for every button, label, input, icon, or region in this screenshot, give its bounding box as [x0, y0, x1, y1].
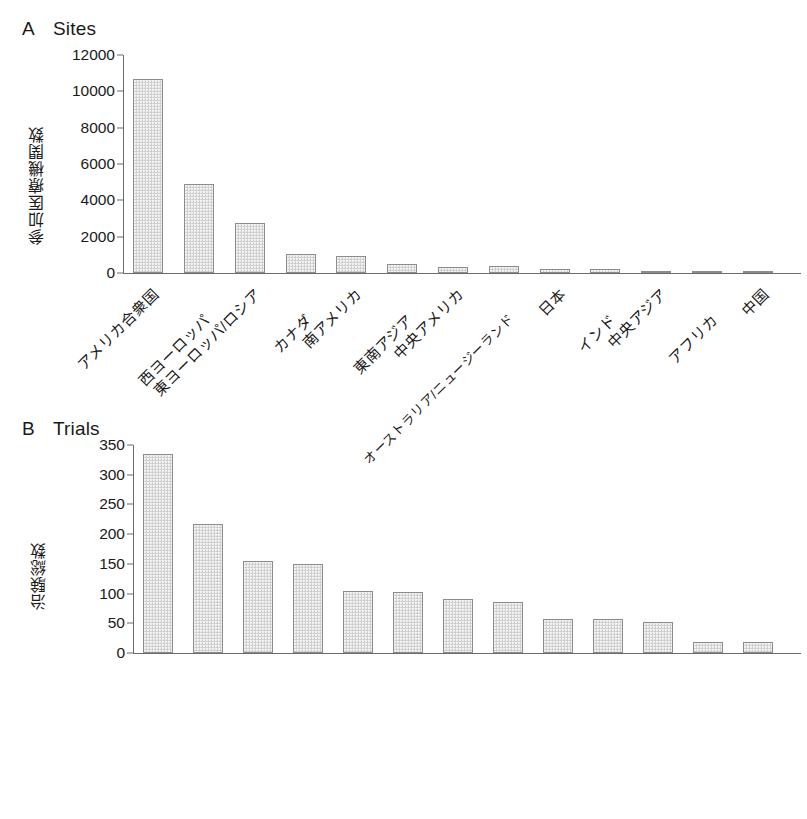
- y-tick-label: 150: [53, 555, 125, 573]
- panel-b-y-axis-label: 治験総数: [28, 490, 52, 610]
- bar-group: [275, 55, 326, 273]
- panel-a-bar-series: [123, 55, 783, 273]
- panel-b-plot: 治験総数 050100150200250300350: [0, 445, 807, 660]
- y-tick-mark: [117, 273, 123, 274]
- y-tick-mark: [117, 55, 123, 56]
- bar: [643, 622, 673, 653]
- bar: [493, 602, 523, 653]
- panel-a-plot: 参加医療機関数 020004000600080001000012000: [0, 55, 807, 280]
- y-tick-label: 2000: [43, 228, 115, 246]
- bar: [393, 592, 423, 653]
- panel-b-letter: B: [22, 418, 35, 440]
- y-tick-mark: [127, 504, 133, 505]
- panel-b-trials: B Trials 治験総数 050100150200250300350 アメリカ…: [0, 400, 807, 819]
- y-tick-mark: [117, 200, 123, 201]
- bar: [590, 269, 620, 273]
- bar-group: [533, 445, 583, 653]
- bar: [293, 564, 323, 653]
- y-tick-mark: [127, 474, 133, 475]
- y-tick-mark: [117, 91, 123, 92]
- panel-a-header: A Sites: [22, 18, 96, 40]
- bar: [143, 454, 173, 653]
- bar: [193, 524, 223, 653]
- panel-b-bar-series: [133, 445, 783, 653]
- bar: [743, 271, 773, 273]
- bar-group: [383, 445, 433, 653]
- y-tick-mark: [127, 653, 133, 654]
- bar: [133, 79, 163, 273]
- bar: [243, 561, 273, 653]
- bar: [387, 264, 417, 273]
- y-tick-label: 300: [53, 466, 125, 484]
- bar-group: [633, 445, 683, 653]
- bar: [235, 223, 265, 273]
- panel-b-x-axis-line: [133, 653, 801, 654]
- bar: [743, 642, 773, 653]
- bar-group: [133, 445, 183, 653]
- y-tick-label: 12000: [43, 46, 115, 64]
- bar: [286, 254, 316, 273]
- bar-group: [732, 55, 783, 273]
- y-tick-mark: [127, 534, 133, 535]
- y-tick-mark: [127, 593, 133, 594]
- y-tick-mark: [127, 563, 133, 564]
- y-tick-label: 50: [53, 614, 125, 632]
- y-tick-label: 8000: [43, 119, 115, 137]
- bar-group: [174, 55, 225, 273]
- bar: [489, 266, 519, 273]
- y-tick-label: 200: [53, 525, 125, 543]
- y-tick-label: 350: [53, 436, 125, 454]
- panel-a-letter: A: [22, 18, 35, 40]
- bar-group: [681, 55, 732, 273]
- panel-a-x-axis-line: [123, 273, 801, 274]
- y-tick-mark: [117, 164, 123, 165]
- bar-group: [631, 55, 682, 273]
- bar: [692, 271, 722, 273]
- bar-group: [483, 445, 533, 653]
- bar: [336, 256, 366, 273]
- bar: [343, 591, 373, 653]
- bar-group: [333, 445, 383, 653]
- bar-group: [283, 445, 333, 653]
- bar-group: [225, 55, 276, 273]
- bar-group: [733, 445, 783, 653]
- x-tick-label: 日本: [533, 283, 570, 320]
- bar: [693, 642, 723, 653]
- panel-a-y-axis-ticks: 020004000600080001000012000: [43, 55, 115, 273]
- bar-group: [583, 445, 633, 653]
- bar-group: [683, 445, 733, 653]
- bar-group: [478, 55, 529, 273]
- y-tick-label: 0: [43, 264, 115, 282]
- bar: [540, 269, 570, 273]
- bar-group: [326, 55, 377, 273]
- panel-b-y-axis-ticks: 050100150200250300350: [53, 445, 125, 653]
- bar: [438, 267, 468, 273]
- y-tick-label: 10000: [43, 82, 115, 100]
- y-tick-mark: [117, 236, 123, 237]
- bar-group: [183, 445, 233, 653]
- y-tick-label: 250: [53, 495, 125, 513]
- y-tick-label: 4000: [43, 191, 115, 209]
- x-tick-label: 中国: [736, 283, 773, 320]
- bar-group: [123, 55, 174, 273]
- bar: [543, 619, 573, 653]
- y-tick-mark: [117, 127, 123, 128]
- bar-group: [377, 55, 428, 273]
- y-tick-mark: [127, 623, 133, 624]
- panel-a-sites: A Sites 参加医療機関数 020004000600080001000012…: [0, 0, 807, 410]
- y-tick-mark: [127, 445, 133, 446]
- bar: [184, 184, 214, 273]
- bar: [593, 619, 623, 653]
- bar: [443, 599, 473, 653]
- bar-group: [433, 445, 483, 653]
- bar: [641, 271, 671, 273]
- panel-a-title: Sites: [53, 18, 96, 40]
- y-tick-label: 6000: [43, 155, 115, 173]
- bar-group: [428, 55, 479, 273]
- bar-group: [529, 55, 580, 273]
- bar-group: [580, 55, 631, 273]
- bar-group: [233, 445, 283, 653]
- y-tick-label: 0: [53, 644, 125, 662]
- y-tick-label: 100: [53, 585, 125, 603]
- x-tick-label: アフリカ: [663, 309, 722, 368]
